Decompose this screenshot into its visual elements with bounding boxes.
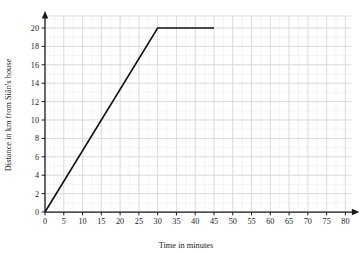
x-axis-tick-label: 55 [247, 217, 255, 226]
x-axis-tick-label: 10 [78, 217, 86, 226]
x-axis-tick-label: 0 [43, 217, 47, 226]
y-axis-tick-label: 18 [31, 42, 39, 51]
x-axis-tick-label: 40 [191, 217, 199, 226]
x-axis-tick-label: 60 [266, 217, 274, 226]
y-axis-tick-label: 10 [31, 116, 39, 125]
x-axis-tick-label: 30 [154, 217, 162, 226]
x-axis-tick-label: 50 [229, 217, 237, 226]
x-axis-tick-label: 75 [323, 217, 331, 226]
x-axis-tick-label: 45 [210, 217, 218, 226]
y-axis-tick-label: 2 [35, 190, 39, 199]
y-axis-tick-label: 16 [31, 61, 39, 70]
x-axis-tick-label: 35 [172, 217, 180, 226]
x-axis-tick-label: 65 [285, 217, 293, 226]
y-axis-tick-label: 0 [35, 208, 39, 217]
y-axis-title: Distance in km from Siân's house [4, 58, 13, 171]
y-axis-tick-label: 14 [31, 79, 39, 88]
distance-time-chart: 0510152025303540455055606570758002468101… [0, 0, 364, 254]
x-axis-tick-label: 80 [341, 217, 349, 226]
y-axis-tick-label: 4 [35, 171, 39, 180]
x-axis-tick-label: 25 [135, 217, 143, 226]
x-axis-tick-label: 20 [116, 217, 124, 226]
x-axis-title: Time in minutes [159, 241, 214, 250]
x-axis-tick-label: 70 [304, 217, 312, 226]
x-axis-tick-label: 5 [62, 217, 66, 226]
y-axis-tick-label: 12 [31, 98, 39, 107]
y-axis-tick-label: 6 [35, 153, 39, 162]
y-axis-tick-label: 8 [35, 134, 39, 143]
y-axis-tick-label: 20 [31, 24, 39, 33]
chart-canvas: 0510152025303540455055606570758002468101… [0, 0, 364, 254]
x-axis-tick-label: 15 [97, 217, 105, 226]
